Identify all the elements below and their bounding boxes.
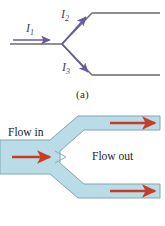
current-label-i1-subscript: 1 xyxy=(30,28,34,37)
flow-in-label: Flow in xyxy=(8,126,43,138)
panel-a-caption: (a) xyxy=(0,88,165,100)
current-label-i2-subscript: 2 xyxy=(65,14,69,23)
current-label-i3: I3 xyxy=(62,60,70,76)
current-label-i2: I2 xyxy=(61,7,69,23)
flow-out-label: Flow out xyxy=(92,150,133,162)
figure-container: I1 I2 I3 (a) xyxy=(0,0,165,226)
current-label-i3-subscript: 3 xyxy=(66,67,70,76)
panel-a: I1 I2 I3 (a) xyxy=(0,0,165,113)
current-label-i1: I1 xyxy=(26,21,34,37)
